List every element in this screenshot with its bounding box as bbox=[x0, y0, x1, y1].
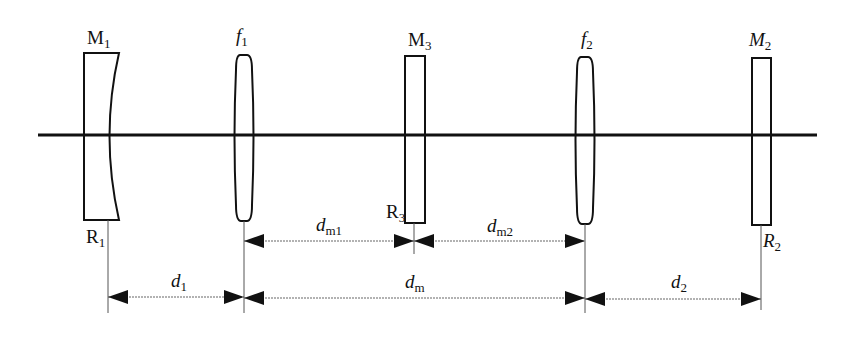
label-d2: d2 bbox=[671, 271, 687, 295]
label-dm2: dm2 bbox=[487, 215, 513, 239]
label-m2: M2 bbox=[748, 29, 771, 53]
label-dm1: dm1 bbox=[316, 214, 342, 238]
lens-f1 bbox=[235, 55, 254, 313]
mirror-m2 bbox=[752, 58, 771, 310]
label-m3: M3 bbox=[408, 29, 431, 53]
label-m1: M1 bbox=[87, 27, 110, 51]
label-f1: f1 bbox=[236, 25, 248, 49]
label-r1: R1 bbox=[86, 226, 105, 250]
lens-f2 bbox=[576, 57, 595, 313]
label-r3: R3 bbox=[386, 201, 405, 225]
label-d1: d1 bbox=[171, 270, 187, 294]
mirror-m1 bbox=[84, 53, 119, 313]
label-f2: f2 bbox=[581, 28, 593, 52]
label-r2: R2 bbox=[762, 230, 781, 254]
label-dm: dm bbox=[405, 271, 425, 295]
mirror-m3 bbox=[405, 56, 425, 254]
optical-diagram: M1 f1 M3 f2 M2 R1 R3 R2 dm1 dm2 d1 dm d2 bbox=[0, 0, 851, 339]
